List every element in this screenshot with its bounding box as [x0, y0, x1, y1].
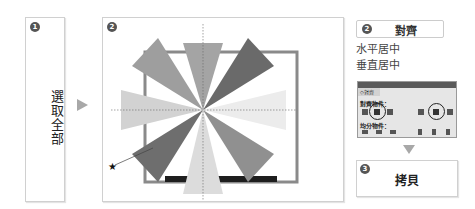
- align-bottom-icon[interactable]: [447, 109, 453, 115]
- distribute-bottom-icon[interactable]: [390, 130, 396, 134]
- select-all-label: 選取全部: [26, 90, 64, 146]
- align-panel: ◇對齊 對齊物件： 均分物件：: [357, 81, 457, 138]
- align-right-icon[interactable]: [387, 109, 393, 115]
- highlight-circle: [369, 103, 386, 120]
- distribute-right-icon[interactable]: [446, 129, 450, 135]
- align-step-title: 2 對齊: [356, 20, 444, 38]
- distribute-top-icon[interactable]: [362, 130, 368, 134]
- align-title-label: 對齊: [395, 22, 417, 38]
- align-top-icon[interactable]: [418, 109, 424, 115]
- highlight-circle: [428, 103, 445, 120]
- radial-rays-artwork: ★: [103, 18, 343, 201]
- instruction-vertical-center: 垂直居中: [356, 56, 400, 72]
- arrow-down-icon: [403, 145, 415, 154]
- step-1-select-all: 1 選取全部: [25, 17, 65, 202]
- distribute-objects-label: 均分物件：: [360, 121, 390, 130]
- align-left-icon[interactable]: [362, 109, 368, 115]
- distribute-left-icon[interactable]: [418, 129, 422, 135]
- step-copy: 3 拷貝: [356, 160, 458, 197]
- distribute-hcenter-icon[interactable]: [432, 129, 436, 135]
- step-number-badge: 1: [30, 22, 40, 32]
- align-panel-tab[interactable]: ◇對齊: [358, 88, 380, 96]
- star-marker-icon: ★: [108, 161, 117, 172]
- arrow-right-icon: [77, 99, 88, 111]
- step-number-badge: 2: [362, 24, 372, 34]
- distribute-vcenter-icon[interactable]: [376, 130, 382, 134]
- copy-label: 拷貝: [357, 171, 457, 188]
- step-2-artwork: 2 ★: [102, 17, 344, 202]
- instruction-horizontal-center: 水平居中: [356, 40, 400, 56]
- step-number-badge: 2: [107, 22, 117, 32]
